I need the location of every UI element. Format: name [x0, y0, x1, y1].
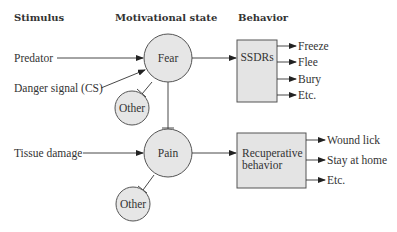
motivational-state-diagram: Stimulus Motivational state Behavior Pre… — [0, 0, 397, 232]
behavior-ssdrs-box — [237, 40, 277, 102]
inhibit-line-other-fear — [142, 82, 152, 94]
stimulus-tissue-damage: Tissue damage — [14, 147, 82, 160]
header-stimulus: Stimulus — [14, 12, 65, 23]
stimulus-danger-signal: Danger signal (CS) — [14, 82, 103, 95]
header-motivational-state: Motivational state — [115, 12, 217, 23]
behavior-ssdrs-label: SSDRs — [240, 51, 274, 63]
output-wound-lick: Wound lick — [327, 134, 380, 146]
state-fear-label: Fear — [158, 52, 179, 64]
output-freeze: Freeze — [298, 40, 329, 52]
output-etc-fear: Etc. — [298, 89, 316, 101]
arrow-danger-signal-to-fear — [101, 70, 145, 88]
output-stay-at-home: Stay at home — [327, 154, 387, 167]
output-bury: Bury — [298, 73, 321, 86]
state-pain-label: Pain — [158, 147, 179, 159]
output-flee: Flee — [298, 56, 318, 68]
state-other-bottom-label: Other — [120, 198, 146, 210]
stimulus-predator: Predator — [14, 52, 53, 64]
output-etc-pain: Etc. — [327, 174, 345, 186]
state-other-top-label: Other — [119, 102, 145, 114]
header-behavior: Behavior — [238, 12, 289, 23]
inhibit-line-pain-other — [143, 175, 154, 190]
behavior-recuperative-label-line2: behavior — [242, 159, 282, 171]
